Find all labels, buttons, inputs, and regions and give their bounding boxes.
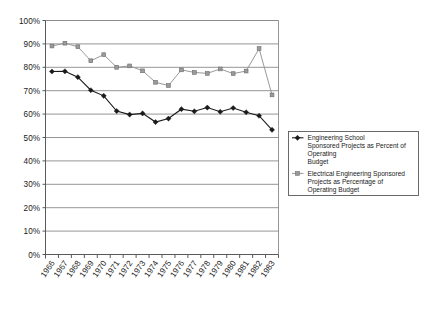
y-axis-tick-label: 10% [24,227,40,236]
y-axis-tick-label: 80% [24,63,40,72]
chart-container: 0%10%20%30%40%50%60%70%80%90%100% 196619… [0,0,426,318]
chart-legend: Engineering SchoolSponsored Projects as … [289,132,419,196]
data-point-marker [257,47,261,51]
data-point-marker [180,68,184,72]
legend-entry-label: Electrical Engineering Sponsored [308,170,406,178]
data-point-marker [63,41,67,45]
y-axis-tick-label: 0% [28,251,40,260]
data-point-marker [128,64,132,68]
y-axis-tick-label: 70% [24,87,40,96]
data-point-marker [154,80,158,84]
data-point-marker [141,69,145,73]
line-chart: 0%10%20%30%40%50%60%70%80%90%100% 196619… [0,0,426,318]
data-point-marker [231,72,235,76]
data-point-marker [218,67,222,71]
y-axis-tick-label: 50% [24,134,40,143]
y-axis-tick-label: 30% [24,180,40,189]
legend-entry-label: Projects as Percentage of [308,178,384,186]
data-point-marker [115,65,119,69]
data-point-marker [50,44,54,48]
data-point-marker [192,71,196,75]
y-axis-tick-label: 100% [19,17,40,26]
y-axis-tick-label: 20% [24,204,40,213]
legend-entry-label: Operating Budget [308,186,360,194]
data-point-marker [76,45,80,49]
data-point-marker [102,53,106,57]
y-axis-tick-label: 60% [24,110,40,119]
legend-entry-label: Sponsored Projects as Percent of [308,142,406,150]
legend-square-marker [296,172,300,176]
legend-entry-label: Operating [308,150,337,158]
data-point-marker [89,59,93,63]
data-point-marker [205,71,209,75]
legend-entry-label: Engineering School [308,134,366,142]
data-point-marker [167,84,171,88]
data-point-marker [244,69,248,73]
data-point-marker [270,93,274,97]
y-axis-tick-label: 90% [24,40,40,49]
legend-entry-label: Budget [308,158,329,166]
y-axis-tick-label: 40% [24,157,40,166]
